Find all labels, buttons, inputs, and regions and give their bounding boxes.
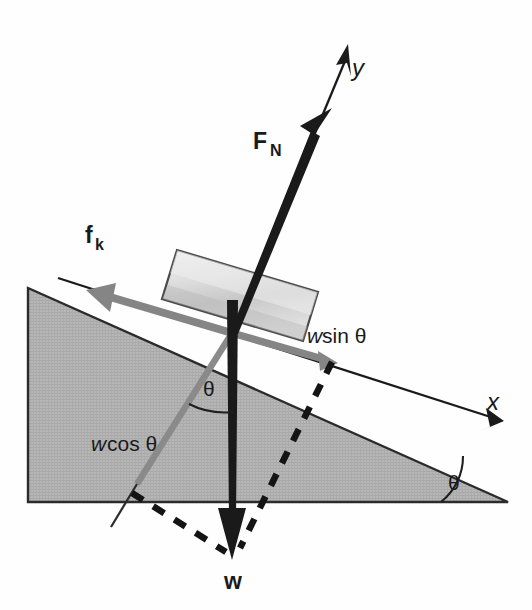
y-axis-label: y <box>350 54 366 81</box>
w-sin-theta-function: sin θ <box>322 324 366 347</box>
x-axis-label: x <box>486 388 500 415</box>
weight-label: w <box>223 568 242 594</box>
physics-diagram-canvas: F N f k y x w sin θ w cos θ θ θ w <box>0 0 532 610</box>
w-cos-theta-variable: w <box>91 432 108 455</box>
friction-label: f <box>85 222 93 248</box>
normal-force-label: F <box>253 128 267 154</box>
inclined-plane-free-body-diagram: F N f k y x w sin θ w cos θ θ θ w <box>0 0 532 610</box>
incline-angle-label: θ <box>448 471 460 494</box>
friction-subscript: k <box>95 236 104 253</box>
w-cos-theta-function: cos θ <box>107 432 157 455</box>
weight-angle-label: θ <box>203 377 215 400</box>
normal-force-subscript: N <box>270 142 282 159</box>
